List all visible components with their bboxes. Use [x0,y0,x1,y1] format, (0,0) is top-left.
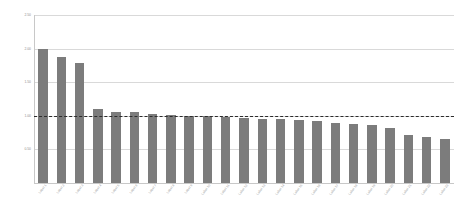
x-axis-tick-label: Label 9 [185,184,194,195]
reference-line [34,116,454,117]
bar[interactable] [276,119,285,183]
x-axis-tick-label: Label 4 [93,184,102,195]
y-axis-tick-label: 2.50 [2,13,31,17]
bar[interactable] [258,119,267,184]
x-axis-tick-label: Label 13 [256,184,267,196]
bar[interactable] [57,57,66,183]
x-axis-tick-label: Label 1 [38,184,47,195]
x-axis-tick-label: Label 22 [421,184,432,196]
bar[interactable] [312,121,321,183]
x-axis-tick-label: Label 20 [384,184,395,196]
x-axis-tick-label: Label 10 [202,184,213,196]
x-axis-tick-label: Label 11 [220,184,230,196]
bars-container [34,15,454,183]
x-axis-tick-label: Label 5 [112,184,121,195]
bar[interactable] [203,116,212,183]
bar[interactable] [294,120,303,183]
bar[interactable] [331,123,340,183]
x-axis-tick-label: Label 23 [439,184,450,196]
bar[interactable] [440,139,449,183]
x-axis-category-labels: Label 1Label 2Label 3Label 4Label 5Label… [34,184,454,223]
bar[interactable] [239,118,248,183]
y-axis-tick-label: 1.00 [2,114,31,118]
y-axis-tick-label: 1.50 [2,80,31,84]
x-axis-tick-label: Label 16 [311,184,322,196]
bar[interactable] [148,114,157,183]
bar[interactable] [221,117,230,183]
bar[interactable] [385,128,394,183]
x-axis-tick-label: Label 3 [75,184,84,195]
y-axis-tick-label: 2.00 [2,47,31,51]
bar[interactable] [166,115,175,183]
x-axis-tick-label: Label 15 [293,184,304,196]
x-axis-tick-label: Label 19 [366,184,377,196]
x-axis-tick-label: Label 18 [348,184,359,196]
x-axis-tick-label: Label 17 [330,184,341,196]
x-axis-tick-label: Label 8 [166,184,175,195]
x-axis-tick-label: Label 2 [57,184,66,195]
y-axis-tick-label: 0.50 [2,147,31,151]
bar[interactable] [422,137,431,183]
bar[interactable] [75,63,84,183]
bar[interactable] [130,112,139,183]
x-axis-tick-label: Label 21 [403,184,414,196]
x-axis-tick-label: Label 12 [238,184,249,196]
bar[interactable] [404,135,413,183]
bar[interactable] [111,112,120,183]
x-axis-tick-label: Label 14 [275,184,286,196]
bar-chart: 0.501.001.502.002.50 Label 1Label 2Label… [0,0,462,223]
x-axis-tick-label: Label 6 [130,184,139,195]
x-axis-tick-label: Label 7 [148,184,157,195]
bar[interactable] [349,124,358,183]
bar[interactable] [93,109,102,183]
bar[interactable] [184,116,193,183]
bar[interactable] [367,125,376,183]
